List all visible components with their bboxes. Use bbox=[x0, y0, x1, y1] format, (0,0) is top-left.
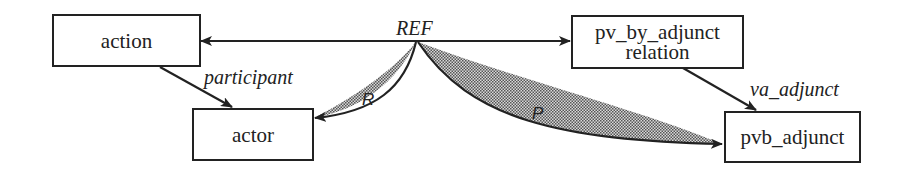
pv-by-adjunct-label-line1: pv_by_adjunct bbox=[595, 22, 720, 42]
ref-label: REF bbox=[396, 17, 433, 40]
va-adjunct-label: va_adjunct bbox=[750, 78, 839, 101]
va-adjunct-edge bbox=[683, 68, 756, 110]
p-label: P bbox=[532, 104, 543, 124]
action-label: action bbox=[101, 31, 152, 51]
participant-label: participant bbox=[204, 66, 293, 89]
pv-by-adjunct-relation-node: pv_by_adjunct relation bbox=[571, 15, 744, 69]
r-label: R bbox=[362, 90, 374, 110]
pv-by-adjunct-label-line2: relation bbox=[625, 42, 689, 62]
action-node: action bbox=[52, 14, 201, 67]
pvb-adjunct-node: pvb_adjunct bbox=[724, 111, 861, 163]
actor-node: actor bbox=[192, 108, 314, 161]
actor-label: actor bbox=[232, 125, 274, 145]
pvb-adjunct-label: pvb_adjunct bbox=[741, 127, 845, 147]
